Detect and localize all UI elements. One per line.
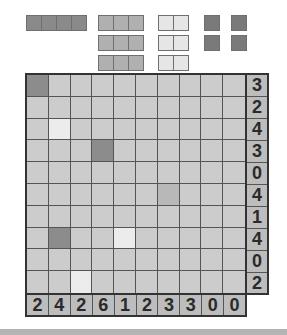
grid-cell[interactable]	[136, 162, 158, 184]
grid-cell[interactable]	[92, 271, 114, 293]
grid-cell[interactable]	[114, 97, 136, 119]
grid-cell[interactable]	[92, 97, 114, 119]
grid-cell[interactable]	[136, 119, 158, 141]
grid-cell[interactable]	[180, 206, 202, 228]
grid-cell[interactable]	[158, 162, 180, 184]
grid-cell[interactable]	[71, 206, 93, 228]
grid-cell[interactable]	[158, 75, 180, 97]
grid-cell[interactable]	[136, 97, 158, 119]
grid-cell[interactable]	[27, 184, 49, 206]
grid-cell[interactable]	[201, 75, 223, 97]
grid-cell[interactable]	[223, 97, 245, 119]
grid-cell[interactable]	[180, 119, 202, 141]
grid-cell[interactable]	[27, 271, 49, 293]
grid-cell[interactable]	[114, 162, 136, 184]
grid-cell[interactable]	[223, 75, 245, 97]
grid-cell[interactable]	[71, 119, 93, 141]
grid-cell[interactable]	[49, 119, 71, 141]
grid-cell[interactable]	[71, 75, 93, 97]
grid-cell[interactable]	[71, 228, 93, 250]
grid-cell[interactable]	[49, 249, 71, 271]
grid-cell[interactable]	[180, 249, 202, 271]
grid-cell[interactable]	[92, 140, 114, 162]
grid-cell[interactable]	[201, 97, 223, 119]
grid-cell[interactable]	[223, 249, 245, 271]
grid-cell[interactable]	[223, 271, 245, 293]
grid-cell[interactable]	[136, 271, 158, 293]
grid-cell[interactable]	[71, 271, 93, 293]
grid-cell[interactable]	[49, 271, 71, 293]
grid-cell[interactable]	[136, 228, 158, 250]
grid-cell[interactable]	[92, 228, 114, 250]
grid-cell[interactable]	[180, 97, 202, 119]
grid-cell[interactable]	[136, 140, 158, 162]
grid-cell[interactable]	[27, 75, 49, 97]
grid-cell[interactable]	[158, 271, 180, 293]
grid-cell[interactable]	[71, 97, 93, 119]
grid-cell[interactable]	[158, 119, 180, 141]
grid-cell[interactable]	[71, 249, 93, 271]
grid-cell[interactable]	[92, 119, 114, 141]
grid-cell[interactable]	[92, 162, 114, 184]
grid-cell[interactable]	[201, 271, 223, 293]
grid-cell[interactable]	[201, 119, 223, 141]
grid-cell[interactable]	[223, 119, 245, 141]
grid-cell[interactable]	[223, 184, 245, 206]
grid-cell[interactable]	[92, 75, 114, 97]
grid-cell[interactable]	[92, 184, 114, 206]
grid-cell[interactable]	[158, 228, 180, 250]
grid-cell[interactable]	[180, 140, 202, 162]
grid-cell[interactable]	[180, 162, 202, 184]
grid-cell[interactable]	[223, 206, 245, 228]
grid-cell[interactable]	[92, 206, 114, 228]
grid-cell[interactable]	[49, 140, 71, 162]
grid-cell[interactable]	[158, 206, 180, 228]
grid-cell[interactable]	[27, 249, 49, 271]
grid-cell[interactable]	[201, 140, 223, 162]
grid-cell[interactable]	[27, 228, 49, 250]
grid-cell[interactable]	[136, 249, 158, 271]
grid-cell[interactable]	[27, 97, 49, 119]
grid-cell[interactable]	[92, 249, 114, 271]
grid-cell[interactable]	[114, 184, 136, 206]
grid-cell[interactable]	[27, 206, 49, 228]
grid-cell[interactable]	[223, 228, 245, 250]
grid-cell[interactable]	[223, 162, 245, 184]
grid-cell[interactable]	[180, 228, 202, 250]
grid-cell[interactable]	[49, 162, 71, 184]
grid-cell[interactable]	[114, 206, 136, 228]
grid-cell[interactable]	[136, 75, 158, 97]
grid-cell[interactable]	[114, 249, 136, 271]
grid-cell[interactable]	[201, 249, 223, 271]
grid-cell[interactable]	[158, 249, 180, 271]
grid-cell[interactable]	[180, 184, 202, 206]
grid-cell[interactable]	[136, 184, 158, 206]
grid-cell[interactable]	[180, 75, 202, 97]
grid-cell[interactable]	[71, 140, 93, 162]
grid-cell[interactable]	[114, 119, 136, 141]
grid-cell[interactable]	[114, 75, 136, 97]
grid-cell[interactable]	[114, 140, 136, 162]
grid-cell[interactable]	[223, 140, 245, 162]
grid-cell[interactable]	[180, 271, 202, 293]
grid-cell[interactable]	[27, 119, 49, 141]
grid-cell[interactable]	[49, 97, 71, 119]
grid-cell[interactable]	[201, 184, 223, 206]
grid-cell[interactable]	[27, 140, 49, 162]
grid-cell[interactable]	[201, 206, 223, 228]
grid-cell[interactable]	[71, 184, 93, 206]
grid-cell[interactable]	[49, 228, 71, 250]
grid-cell[interactable]	[136, 206, 158, 228]
grid-cell[interactable]	[114, 271, 136, 293]
grid-cell[interactable]	[158, 140, 180, 162]
grid-cell[interactable]	[49, 184, 71, 206]
grid-cell[interactable]	[201, 162, 223, 184]
grid-cell[interactable]	[158, 97, 180, 119]
grid-cell[interactable]	[158, 184, 180, 206]
grid-cell[interactable]	[49, 75, 71, 97]
grid-cell[interactable]	[71, 162, 93, 184]
grid-cell[interactable]	[201, 228, 223, 250]
grid-cell[interactable]	[27, 162, 49, 184]
grid-cell[interactable]	[49, 206, 71, 228]
grid-cell[interactable]	[114, 228, 136, 250]
